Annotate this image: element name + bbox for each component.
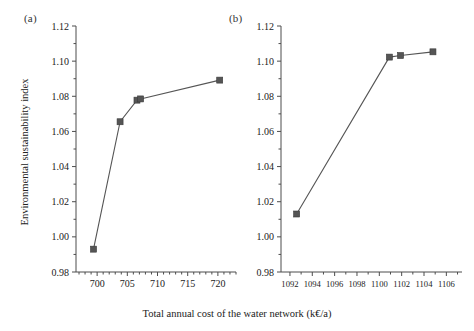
data-point-marker xyxy=(117,119,123,125)
data-point-marker xyxy=(294,211,300,217)
data-point-marker xyxy=(430,49,436,55)
y-tick-label: 1.08 xyxy=(52,91,70,102)
x-tick-label: 1104 xyxy=(416,279,434,289)
y-tick-label: 1.04 xyxy=(52,161,70,172)
data-line xyxy=(297,52,433,214)
x-tick-label: 1092 xyxy=(281,279,298,289)
x-tick-label: 1106 xyxy=(438,279,456,289)
y-tick-label: 0.98 xyxy=(257,267,275,278)
plot-canvas: 0.981.001.021.041.061.081.101.1270070571… xyxy=(0,0,474,331)
y-axis-label-text: Environmental sustainability index xyxy=(16,42,34,262)
y-tick-label: 1.10 xyxy=(52,56,70,67)
y-tick-label: 1.00 xyxy=(52,231,70,242)
panel-a-plot: 0.981.001.021.041.061.081.101.1270070571… xyxy=(52,21,237,290)
x-tick-label: 1098 xyxy=(348,279,365,289)
y-tick-label: 1.06 xyxy=(52,126,70,137)
data-line xyxy=(94,80,220,249)
data-point-marker xyxy=(138,96,144,102)
y-tick-label: 1.10 xyxy=(257,56,275,67)
data-point-marker xyxy=(398,53,404,59)
x-tick-label: 1096 xyxy=(326,279,344,289)
y-tick-label: 1.00 xyxy=(257,231,275,242)
y-tick-label: 1.12 xyxy=(52,21,70,32)
y-tick-label: 1.08 xyxy=(257,91,275,102)
data-point-marker xyxy=(217,77,223,83)
x-tick-label: 715 xyxy=(180,278,195,289)
x-tick-label: 705 xyxy=(120,278,135,289)
x-tick-label: 700 xyxy=(90,278,105,289)
y-tick-label: 1.02 xyxy=(52,196,70,207)
panel-b-plot: 0.981.001.021.041.061.081.101.1210921094… xyxy=(257,21,463,290)
x-tick-label: 720 xyxy=(210,278,225,289)
x-tick-label: 1100 xyxy=(371,279,388,289)
y-tick-label: 1.02 xyxy=(257,196,275,207)
y-tick-label: 1.04 xyxy=(257,161,275,172)
y-tick-label: 0.98 xyxy=(52,267,70,278)
data-point-marker xyxy=(91,246,97,252)
data-point-marker xyxy=(386,54,392,60)
y-axis-label: Environmental sustainability index xyxy=(16,0,34,42)
x-axis-label: Total annual cost of the water network (… xyxy=(0,308,474,319)
x-tick-label: 710 xyxy=(150,278,165,289)
y-tick-label: 1.12 xyxy=(257,21,275,32)
x-tick-label: 1102 xyxy=(393,279,410,289)
x-tick-label: 1094 xyxy=(304,279,322,289)
figure-container: (a) (b) Environmental sustainability ind… xyxy=(0,0,474,331)
panel-label-b: (b) xyxy=(229,12,242,24)
y-tick-label: 1.06 xyxy=(257,126,275,137)
